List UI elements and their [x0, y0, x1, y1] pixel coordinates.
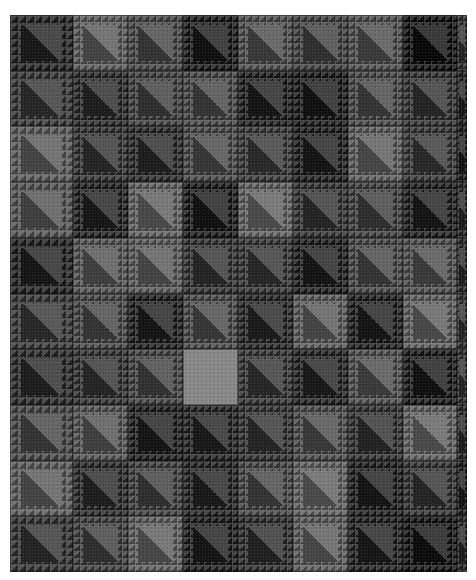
quilt-block: [73, 461, 128, 516]
quilt-block: [403, 349, 457, 405]
quilt-block: [183, 126, 238, 182]
quilt-block: [238, 71, 293, 126]
block-seam: [73, 349, 128, 405]
quilt-block: [10, 15, 73, 71]
block-seam: [183, 238, 238, 294]
block-seam: [348, 461, 403, 516]
block-seam: [403, 71, 457, 126]
block-seam: [238, 182, 293, 238]
quilt-block: [238, 126, 293, 182]
block-seam: [403, 182, 457, 238]
block-seam: [238, 238, 293, 294]
quilt-block: [348, 349, 403, 405]
block-seam: [183, 126, 238, 182]
quilt-block: [238, 349, 293, 405]
block-seam: [457, 71, 467, 126]
block-seam: [293, 349, 348, 405]
quilt-block: [403, 182, 457, 238]
block-seam: [10, 405, 73, 461]
block-seam: [403, 461, 457, 516]
block-seam: [238, 349, 293, 405]
quilt-block: [183, 461, 238, 516]
quilt-block: [238, 15, 293, 71]
quilt-block: [403, 238, 457, 294]
quilt-block: [73, 516, 128, 572]
quilt-block: [457, 71, 467, 126]
block-seam: [457, 294, 467, 349]
quilt-block: [293, 349, 348, 405]
quilt-block: [403, 294, 457, 349]
quilt-block: [238, 461, 293, 516]
block-seam: [128, 516, 183, 572]
block-seam: [128, 461, 183, 516]
quilt-block: [457, 405, 467, 461]
block-seam: [73, 126, 128, 182]
block-seam: [73, 294, 128, 349]
block-seam: [10, 71, 73, 126]
block-seam: [238, 294, 293, 349]
quilt-block: [457, 516, 467, 572]
quilt-block: [10, 126, 73, 182]
quilt-block: [348, 294, 403, 349]
block-seam: [128, 15, 183, 71]
block-seam: [183, 294, 238, 349]
quilt-block: [128, 349, 183, 405]
quilt-block: [183, 182, 238, 238]
quilt-block: [457, 461, 467, 516]
quilt-block: [293, 238, 348, 294]
quilt-block: [10, 516, 73, 572]
quilt-block: [348, 126, 403, 182]
quilt-block: [348, 15, 403, 71]
quilt-block: [403, 461, 457, 516]
quilt-block: [293, 71, 348, 126]
block-seam: [10, 15, 73, 71]
block-seam: [73, 238, 128, 294]
block-seam: [457, 126, 467, 182]
quilt-block: [457, 182, 467, 238]
quilt-block: [403, 71, 457, 126]
block-seam: [348, 15, 403, 71]
quilt-block: [73, 405, 128, 461]
quilt-block: [73, 182, 128, 238]
quilt-block: [73, 349, 128, 405]
block-seam: [403, 126, 457, 182]
quilt-block: [238, 405, 293, 461]
quilt-block: [348, 71, 403, 126]
block-seam: [238, 15, 293, 71]
block-seam: [348, 182, 403, 238]
block-seam: [293, 126, 348, 182]
quilt-block: [128, 405, 183, 461]
quilt-block: [457, 238, 467, 294]
quilt-block: [10, 182, 73, 238]
block-seam: [293, 516, 348, 572]
block-seam: [128, 238, 183, 294]
quilt-block: [293, 405, 348, 461]
quilt-block: [238, 182, 293, 238]
block-seam: [10, 516, 73, 572]
block-seam: [73, 71, 128, 126]
block-seam: [10, 349, 73, 405]
block-seam: [293, 461, 348, 516]
quilt-block: [10, 71, 73, 126]
quilt-block: [457, 294, 467, 349]
quilt-block: [73, 15, 128, 71]
block-seam: [128, 349, 183, 405]
block-seam: [348, 71, 403, 126]
quilt-block: [238, 294, 293, 349]
block-seam: [128, 405, 183, 461]
block-seam: [293, 15, 348, 71]
block-seam: [238, 461, 293, 516]
quilt-block: [73, 126, 128, 182]
quilt-block: [183, 294, 238, 349]
block-seam: [10, 126, 73, 182]
block-seam: [457, 182, 467, 238]
block-seam: [457, 15, 467, 71]
block-seam: [10, 182, 73, 238]
block-seam: [238, 126, 293, 182]
block-seam: [183, 516, 238, 572]
quilt-block: [403, 516, 457, 572]
quilt-block: [10, 405, 73, 461]
quilt-block: [293, 182, 348, 238]
block-seam: [457, 461, 467, 516]
quilt-block: [183, 71, 238, 126]
